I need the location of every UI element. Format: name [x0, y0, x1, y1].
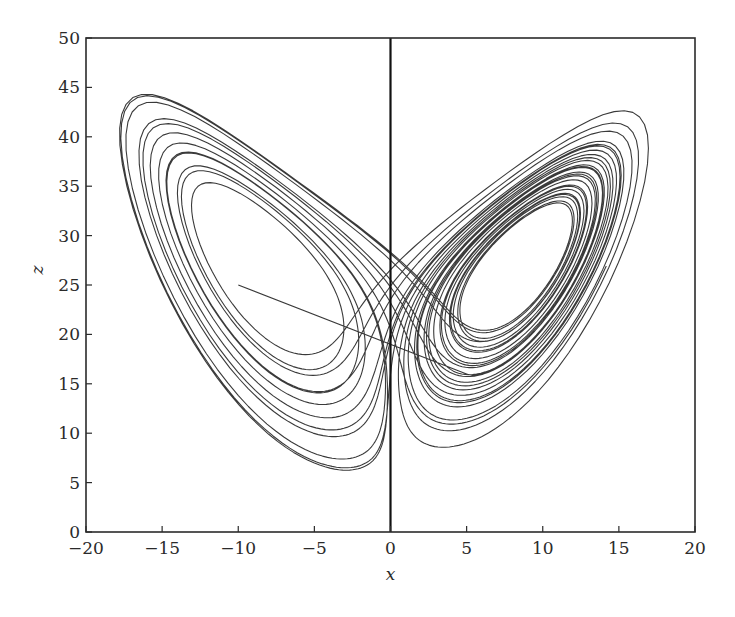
x-axis-label: x	[386, 564, 396, 584]
y-tick-label: 20	[58, 324, 80, 344]
y-tick-label: 15	[58, 374, 80, 394]
x-tick-label: 10	[532, 538, 554, 558]
x-tick-label: 5	[461, 538, 472, 558]
x-tick-label: −10	[220, 538, 256, 558]
y-axis-label: z	[27, 265, 47, 276]
x-axis-ticks: −20−15−10−505101520	[68, 526, 706, 558]
x-tick-label: 15	[608, 538, 630, 558]
y-tick-label: 30	[58, 226, 80, 246]
x-tick-label: −15	[144, 538, 180, 558]
y-tick-label: 0	[69, 522, 80, 542]
lorenz-chart: −20−15−10−505101520 05101520253035404550…	[0, 0, 735, 617]
y-tick-label: 50	[58, 28, 80, 48]
y-tick-label: 35	[58, 176, 80, 196]
lorenz-trajectory-line	[120, 95, 649, 471]
x-tick-label: 20	[684, 538, 706, 558]
y-tick-label: 5	[69, 473, 80, 493]
x-tick-label: 0	[385, 538, 396, 558]
y-tick-label: 25	[58, 275, 80, 295]
x-tick-label: −5	[302, 538, 327, 558]
y-tick-label: 45	[58, 77, 80, 97]
y-tick-label: 10	[58, 423, 80, 443]
y-axis-ticks: 05101520253035404550	[58, 28, 92, 542]
attractor-trajectory	[120, 95, 649, 471]
y-tick-label: 40	[58, 127, 80, 147]
